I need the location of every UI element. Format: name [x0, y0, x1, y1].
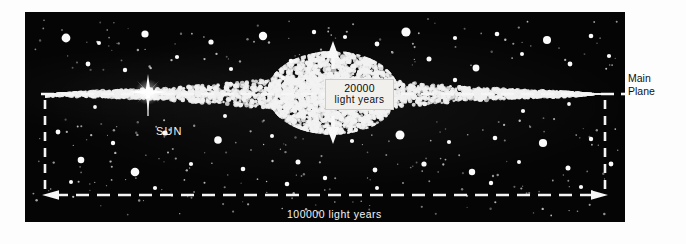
vertical-scale-callout: 20000 light years [325, 79, 394, 110]
arrow-left-icon [42, 190, 59, 200]
main-plane-label-line2: Plane [628, 85, 655, 98]
figure-canvas: SUN 100000 light years 20000 light years… [0, 0, 686, 244]
vertical-scale-unit: light years [326, 94, 393, 106]
main-plane-label: Main Plane [628, 72, 655, 99]
starfield-layer [25, 12, 625, 222]
arrow-right-icon [591, 190, 608, 200]
horizontal-scale-label: 100000 light years [287, 208, 382, 220]
vertical-scale-value: 20000 [326, 82, 393, 94]
sky-panel: SUN 100000 light years 20000 light years [25, 12, 625, 222]
main-plane-label-line1: Main [628, 72, 655, 85]
sun-label: SUN [156, 125, 183, 137]
